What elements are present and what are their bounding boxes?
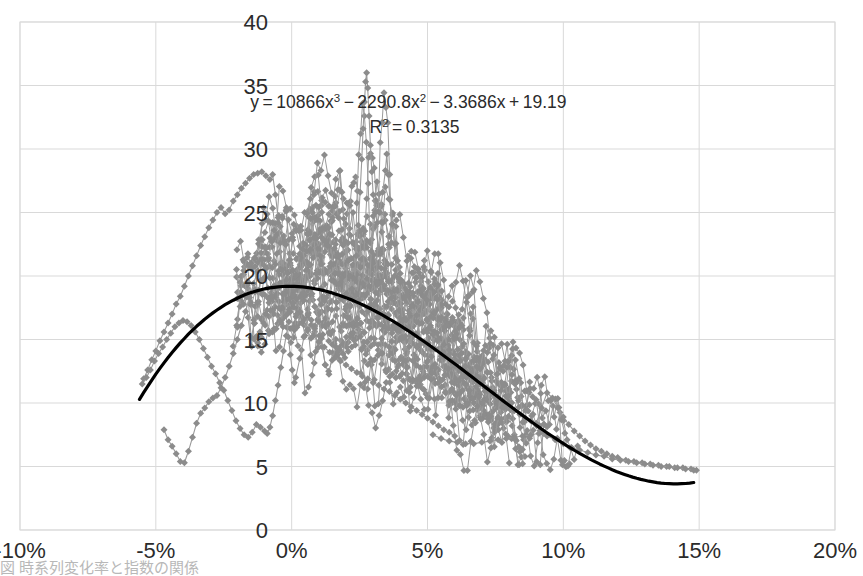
chart-caption: 図 時系列変化率と指数の関係	[0, 560, 863, 576]
y-axis-tick-label: 10	[244, 391, 268, 416]
y-axis-tick-label: 40	[244, 10, 268, 35]
y-axis-tick-label: 0	[256, 518, 268, 543]
y-axis-tick-label: 15	[244, 328, 268, 353]
chart-container: 0510152025303540-10%-5%0%5%10%15%20%y = …	[0, 0, 863, 576]
equation-line: y = 10866x3 − 2290.8x2 − 3.3686x + 19.19	[250, 92, 566, 112]
y-axis-tick-label: 30	[244, 137, 268, 162]
y-axis-tick-label: 25	[244, 201, 268, 226]
y-axis-tick-label: 20	[244, 264, 268, 289]
scatter-chart: 0510152025303540-10%-5%0%5%10%15%20%y = …	[0, 0, 863, 576]
y-axis-tick-label: 5	[256, 455, 268, 480]
